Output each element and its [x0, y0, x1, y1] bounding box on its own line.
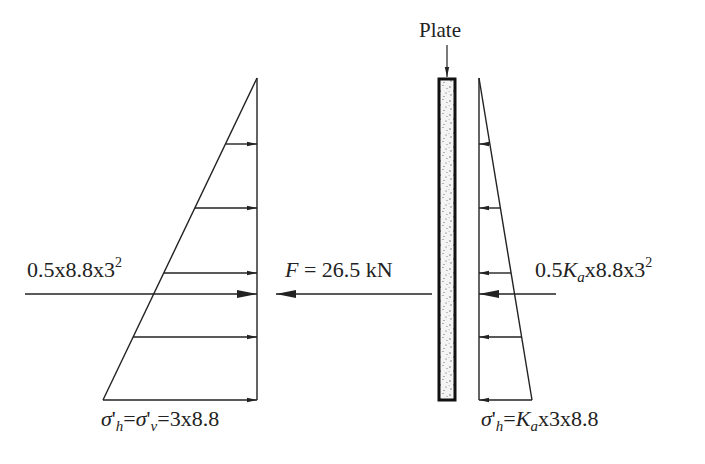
k-subscript-a: a	[577, 269, 585, 285]
equals-sign: =	[503, 406, 515, 431]
force-value: = 26.5 kN	[298, 257, 392, 282]
right-hypotenuse	[479, 78, 532, 400]
k-symbol: K	[516, 406, 531, 431]
equals-sign: =	[123, 406, 135, 431]
right-resultant-prefix: 0.5	[535, 257, 563, 282]
sigma-symbol: σ	[481, 406, 492, 431]
left-resultant-exponent: 2	[115, 255, 122, 270]
plate-body	[439, 79, 455, 400]
diagram-canvas	[0, 0, 705, 464]
right-base-stress-label: σ'h=Kax3x8.8	[481, 408, 598, 430]
right-resultant-exponent: 2	[645, 255, 652, 270]
force-symbol: F	[285, 257, 298, 282]
subscript-v: v	[151, 418, 158, 434]
left-hypotenuse	[103, 78, 257, 400]
net-force-label: F = 26.5 kN	[285, 259, 393, 281]
subscript-h: h	[116, 418, 124, 434]
plate-label: Plate	[419, 20, 461, 41]
plate-label-text: Plate	[419, 18, 461, 42]
plate	[439, 45, 455, 400]
left-stress-triangle	[103, 78, 257, 400]
right-resultant-label: 0.5Kax8.8x32	[535, 259, 652, 281]
left-stress-value: =3x8.8	[157, 406, 219, 431]
right-stress-value: x3x8.8	[538, 406, 599, 431]
left-resultant-text: 0.5x8.8x3	[27, 257, 115, 282]
left-base-stress-label: σ'h=σ'v=3x8.8	[101, 408, 219, 430]
right-resultant-suffix: x8.8x3	[585, 257, 646, 282]
k-symbol: K	[563, 257, 578, 282]
left-resultant-label: 0.5x8.8x32	[27, 259, 122, 281]
right-stress-triangle	[479, 78, 532, 400]
prime-mark-2: '	[147, 406, 151, 431]
sigma-symbol-2: σ	[136, 406, 147, 431]
k-subscript-a: a	[530, 418, 538, 434]
sigma-symbol: σ	[101, 406, 112, 431]
subscript-h: h	[496, 418, 504, 434]
